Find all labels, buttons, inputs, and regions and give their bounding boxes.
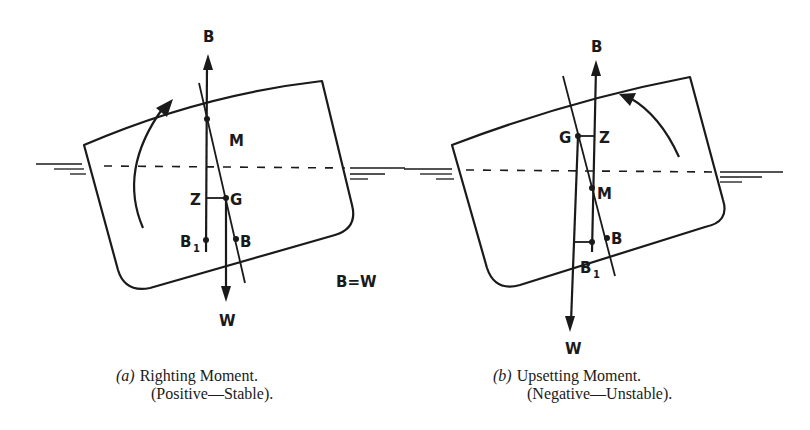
label-z-a: Z	[190, 191, 201, 209]
point-m-a	[204, 116, 210, 122]
label-w-b: W	[565, 340, 582, 358]
label-g-a: G	[230, 191, 242, 209]
waterline-a	[104, 166, 345, 168]
point-g-b	[575, 133, 581, 139]
point-b1-a	[203, 237, 209, 243]
hull-a	[84, 81, 353, 289]
rotation-arrow-b	[630, 98, 679, 157]
label-b1-sub-a: 1	[193, 243, 200, 254]
caption-a-line1: (a)Righting Moment.	[116, 367, 258, 385]
point-b-b	[604, 235, 610, 241]
label-b1-a: B	[180, 233, 191, 251]
label-g-b: G	[559, 129, 571, 147]
panel-a-righting-moment: B M Z G B 1 B W B=W (a)Righting Moment. …	[36, 28, 405, 403]
label-m-b: M	[597, 185, 612, 203]
rotation-arrow-a	[134, 108, 163, 228]
label-b-top-a: B	[203, 28, 214, 46]
label-b1-b: B	[580, 259, 591, 277]
label-equality-a: B=W	[336, 273, 377, 291]
up-arrow-icon	[591, 60, 601, 76]
buoyancy-force-line-a	[206, 62, 207, 252]
down-arrow-icon	[221, 286, 231, 302]
point-g-a	[223, 195, 229, 201]
point-b-a	[233, 236, 239, 242]
label-m-a: M	[229, 132, 244, 150]
point-m-b	[589, 185, 595, 191]
caption-b-line1: (b)Upsetting Moment.	[493, 367, 641, 385]
label-b-top-b: B	[591, 38, 602, 56]
weight-force-line-b	[571, 136, 578, 322]
ship-stability-diagram: B M Z G B 1 B W B=W (a)Righting Moment. …	[0, 0, 810, 430]
buoyancy-force-line-b	[592, 68, 596, 252]
centerline-b	[563, 76, 615, 276]
waterline-ripples-left-b	[404, 169, 454, 179]
hull-b	[452, 77, 725, 287]
waterline-ripples-right-b	[720, 172, 783, 182]
label-z-b: Z	[599, 129, 610, 147]
point-b1-b	[589, 239, 595, 245]
label-b1-sub-b: 1	[593, 269, 600, 280]
waterline-b	[466, 170, 716, 172]
panel-b-upsetting-moment: B G Z M B B 1 W (b)Upsetting Moment. (Ne…	[404, 38, 783, 403]
waterline-ripples-right-a	[350, 168, 405, 179]
label-w-a: W	[219, 312, 236, 330]
up-arrow-icon	[203, 54, 213, 70]
label-b-a: B	[240, 233, 251, 251]
down-arrow-icon	[565, 316, 575, 332]
caption-a-line2: (Positive—Stable).	[151, 385, 273, 403]
label-b-b: B	[611, 230, 622, 248]
waterline-ripples-left-a	[36, 164, 86, 174]
caption-b-line2: (Negative—Unstable).	[527, 385, 672, 403]
